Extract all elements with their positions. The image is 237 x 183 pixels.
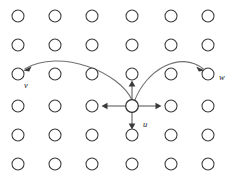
lattice-node-r1c3 bbox=[86, 10, 98, 22]
lattice-node-r1c1 bbox=[12, 10, 24, 22]
lattice-node-r4c1 bbox=[12, 100, 24, 112]
node-label-v: v bbox=[24, 80, 28, 90]
arrow-left-arrowhead bbox=[102, 103, 108, 110]
lattice-node-r4c3 bbox=[86, 100, 98, 112]
node-layer bbox=[12, 10, 214, 170]
node-label-u: u bbox=[143, 119, 147, 129]
lattice-node-r3c3 bbox=[86, 68, 98, 80]
lattice-node-u bbox=[126, 129, 138, 141]
lattice-node-r6c1 bbox=[12, 158, 24, 170]
lattice-node-r2c4 bbox=[126, 39, 138, 51]
lattice-node-r5c6 bbox=[202, 129, 214, 141]
lattice-node-r3c4 bbox=[126, 68, 138, 80]
lattice-node-r3c2 bbox=[49, 68, 61, 80]
lattice-node-r2c3 bbox=[86, 39, 98, 51]
lattice-node-r2c2 bbox=[49, 39, 61, 51]
lattice-node-center bbox=[126, 100, 139, 113]
lattice-node-r6c4 bbox=[126, 158, 138, 170]
lattice-node-r6c3 bbox=[86, 158, 98, 170]
lattice-node-r5c2 bbox=[49, 129, 61, 141]
arrow-up-arrowhead bbox=[129, 81, 136, 87]
lattice-node-r5c3 bbox=[86, 129, 98, 141]
lattice-node-r5c1 bbox=[12, 129, 24, 141]
lattice-node-r3c5 bbox=[165, 68, 177, 80]
curve-to-w-path bbox=[135, 62, 204, 101]
lattice-node-r4c2 bbox=[49, 100, 61, 112]
lattice-node-r1c5 bbox=[165, 10, 177, 22]
lattice-node-r4c6 bbox=[202, 100, 214, 112]
lattice-diagram: v u w bbox=[0, 0, 237, 183]
curve-to-v-path bbox=[25, 61, 133, 101]
lattice-node-r2c1 bbox=[12, 39, 24, 51]
diagram-canvas: v u w bbox=[0, 0, 237, 183]
lattice-node-r6c2 bbox=[49, 158, 61, 170]
lattice-node-r2c6 bbox=[202, 39, 214, 51]
lattice-node-w bbox=[202, 68, 214, 80]
lattice-node-r4c5 bbox=[165, 100, 177, 112]
arrow-right-arrowhead bbox=[156, 103, 162, 110]
lattice-node-r2c5 bbox=[165, 39, 177, 51]
lattice-node-r6c6 bbox=[202, 158, 214, 170]
lattice-node-r1c6 bbox=[202, 10, 214, 22]
lattice-node-r6c5 bbox=[165, 158, 177, 170]
lattice-node-r1c2 bbox=[49, 10, 61, 22]
lattice-node-r5c5 bbox=[165, 129, 177, 141]
lattice-node-r1c4 bbox=[126, 10, 138, 22]
node-label-w: w bbox=[219, 72, 225, 82]
lattice-node-v bbox=[12, 68, 24, 80]
